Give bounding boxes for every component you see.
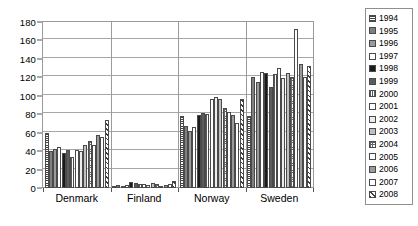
legend-item-2008[interactable]: 2008 [369,188,409,201]
legend-label: 2001 [379,102,398,111]
x-axis-tick [178,188,179,192]
y-axis-tick-label: 40 [25,146,36,157]
legend-item-1996[interactable]: 1996 [369,37,409,50]
legend-label: 1999 [379,77,398,86]
legend-item-2004[interactable]: 2004 [369,138,409,151]
legend-item-2005[interactable]: 2005 [369,151,409,164]
bar-finland-2008[interactable] [172,181,176,188]
x-axis-label-norway: Norway [194,192,230,204]
legend-label: 2003 [379,127,398,136]
bar-norway-2008[interactable] [240,99,244,188]
legend-item-1999[interactable]: 1999 [369,75,409,88]
bar-denmark-2008[interactable] [105,120,109,188]
legend-item-2006[interactable]: 2006 [369,163,409,176]
y-axis-tick-label: 160 [20,35,36,46]
legend-swatch-icon [369,78,376,85]
y-axis-tick-label: 120 [20,72,36,83]
y-axis-tick-label: 100 [20,90,36,101]
legend-item-1997[interactable]: 1997 [369,50,409,63]
x-axis-label-denmark: Denmark [55,192,98,204]
y-axis-tick-label: 180 [20,17,36,28]
legend-label: 2008 [379,190,398,199]
legend-swatch-icon [369,103,376,110]
legend-item-1994[interactable]: 1994 [369,12,409,25]
legend-item-2003[interactable]: 2003 [369,125,409,138]
legend-item-2002[interactable]: 2002 [369,113,409,126]
legend-label: 1997 [379,52,398,61]
legend-swatch-icon [369,90,376,97]
legend-swatch-icon [369,116,376,123]
bar-group-finland [111,22,179,188]
legend-swatch-icon [369,141,376,148]
legend-item-2001[interactable]: 2001 [369,100,409,113]
legend-label: 1998 [379,64,398,73]
x-axis-label-sweden: Sweden [260,192,298,204]
x-axis-tick [111,188,112,192]
y-axis: 020406080100120140160180 [0,21,42,188]
legend-label: 2004 [379,140,398,149]
x-axis-label-finland: Finland [127,192,161,204]
y-axis-tick-label: 60 [25,127,36,138]
x-axis-tick [43,188,44,192]
y-axis-tick-label: 80 [25,109,36,120]
legend-swatch-icon [369,179,376,186]
legend-label: 1996 [379,39,398,48]
legend-swatch-icon [369,40,376,47]
bar-group-sweden [246,22,314,188]
legend-label: 2005 [379,153,398,162]
legend-swatch-icon [369,53,376,60]
legend-label: 2006 [379,165,398,174]
legend-swatch-icon [369,27,376,34]
chart-legend: 1994199519961997199819992000200120022003… [365,8,413,205]
chart-container: 020406080100120140160180 DenmarkFinlandN… [0,0,418,226]
bar-sweden-2008[interactable] [307,66,311,188]
x-axis-tick [246,188,247,192]
legend-item-2007[interactable]: 2007 [369,176,409,189]
legend-swatch-icon [369,15,376,22]
y-axis-tick-label: 140 [20,53,36,64]
bar-group-norway [178,22,246,188]
x-axis-tick [313,188,314,192]
legend-item-1995[interactable]: 1995 [369,25,409,38]
legend-swatch-icon [369,153,376,160]
y-axis-tick-label: 20 [25,164,36,175]
legend-item-2000[interactable]: 2000 [369,88,409,101]
legend-label: 1994 [379,14,398,23]
y-axis-tick-label: 0 [31,183,36,194]
legend-label: 1995 [379,27,398,36]
legend-swatch-icon [369,191,376,198]
x-axis: DenmarkFinlandNorwaySweden [42,192,314,210]
legend-label: 2000 [379,90,398,99]
bar-groups [43,22,313,188]
legend-swatch-icon [369,128,376,135]
bar-group-denmark [43,22,111,188]
legend-item-1998[interactable]: 1998 [369,62,409,75]
legend-swatch-icon [369,166,376,173]
legend-label: 2007 [379,178,398,187]
legend-label: 2002 [379,115,398,124]
legend-swatch-icon [369,65,376,72]
